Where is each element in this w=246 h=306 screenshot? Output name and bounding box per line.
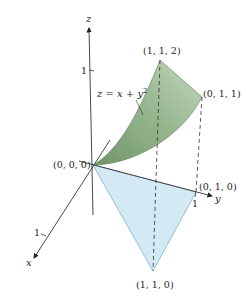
- point-label-010: (0, 1, 0): [199, 181, 237, 192]
- point-label-110: (1, 1, 0): [136, 279, 174, 290]
- 3d-surface-diagram: z 1 x 1 y 1 (0, 0, 0) (1, 1, 2) (0, 1, 1…: [0, 0, 246, 306]
- surface-patch: [93, 60, 202, 165]
- point-label-origin: (0, 0, 0): [53, 159, 91, 170]
- z-axis: [89, 28, 93, 215]
- x-axis: [34, 140, 110, 258]
- z-tick-label: 1: [81, 65, 87, 76]
- region-triangle: [93, 165, 196, 271]
- y-axis-label: y: [214, 193, 221, 204]
- z-axis-label: z: [85, 13, 92, 24]
- point-label-011: (0, 1, 1): [203, 88, 241, 99]
- dashed-line-011-010: [196, 97, 202, 192]
- x-tick-label: 1: [34, 227, 40, 238]
- point-label-112: (1, 1, 2): [143, 45, 181, 56]
- x-axis-label: x: [26, 257, 32, 268]
- surface-equation: z = x + y2: [96, 87, 148, 99]
- y-tick-label: 1: [192, 198, 198, 209]
- x-tick: [41, 234, 46, 236]
